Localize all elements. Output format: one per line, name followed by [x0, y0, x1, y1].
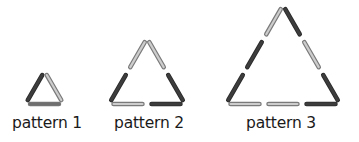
- pattern-2-left-stick-2: [130, 42, 144, 67]
- pattern-3-label: pattern 3: [246, 114, 316, 132]
- pattern-3-left-stick-3: [266, 9, 280, 34]
- pattern-3-right-stick-3: [323, 75, 337, 100]
- pattern-3-right-stick-2: [304, 42, 318, 67]
- pattern-3-right-stick-1: [285, 9, 299, 34]
- pattern-3-left-stick-2: [247, 42, 261, 67]
- pattern-2-right-stick-1: [149, 42, 163, 67]
- pattern-1-right-stick-1: [47, 75, 61, 100]
- pattern-2-left-stick-1: [111, 75, 125, 100]
- pattern-2-label: pattern 2: [114, 114, 184, 132]
- pattern-1-label: pattern 1: [12, 114, 82, 132]
- pattern-3-left-stick-1: [228, 75, 242, 100]
- pattern-2-right-stick-2: [168, 75, 182, 100]
- pattern-1-left-stick-1: [28, 75, 42, 100]
